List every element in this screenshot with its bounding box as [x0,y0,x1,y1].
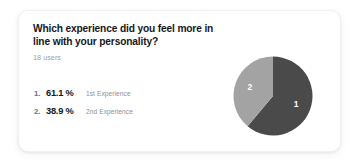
result-percent: 61.1 % [46,88,86,98]
results-list: 1. 61.1 % 1st Experience 2. 38.9 % 2nd E… [34,88,234,124]
page-title: Which experience did you feel more in li… [33,22,223,48]
pie-chart: 1 2 [233,56,313,136]
result-label: 1st Experience [86,90,131,97]
list-item: 2. 38.9 % 2nd Experience [34,106,234,124]
list-item: 1. 61.1 % 1st Experience [34,88,234,106]
question-block: Which experience did you feel more in li… [33,22,229,63]
result-label: 2nd Experience [86,108,133,115]
result-rank: 2. [34,107,46,116]
pie-slice-1-label: 1 [294,99,299,109]
result-percent: 38.9 % [46,106,86,116]
respondent-count: 18 users [33,53,229,63]
survey-result-card: Which experience did you feel more in li… [18,10,341,152]
card-content: Which experience did you feel more in li… [33,22,330,143]
pie-chart-svg: 1 2 [233,56,313,136]
pie-slice-2-label: 2 [248,82,253,92]
result-rank: 1. [34,89,46,98]
